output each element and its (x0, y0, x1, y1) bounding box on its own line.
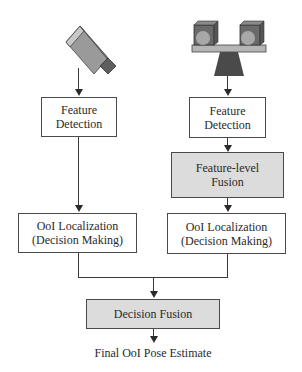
left-feature-detection-box: Feature Detection (41, 97, 117, 137)
arrow-head (224, 89, 232, 96)
box-label: Detection (204, 118, 251, 132)
decision-fusion-box: Decision Fusion (86, 299, 220, 329)
connector-stereo-to-feature (227, 76, 228, 90)
box-label: (Decision Making) (181, 234, 272, 248)
connector-merge-to-decision (153, 277, 154, 292)
right-feature-detection-box: Feature Detection (189, 97, 266, 138)
right-ool-localization-box: OoI Localization (Decision Making) (167, 213, 286, 254)
stereo-camera-icon (192, 20, 268, 80)
box-label: Detection (56, 117, 103, 131)
box-label: OoI Localization (186, 220, 268, 234)
box-label: (Decision Making) (32, 233, 123, 247)
final-output-label: Final OoI Pose Estimate (83, 346, 223, 361)
merge-left-vertical (78, 253, 79, 278)
box-label: OoI Localization (37, 219, 119, 233)
arrow-head (75, 205, 83, 212)
arrow-head (150, 336, 158, 343)
connector-left-feature-to-localization (78, 137, 79, 206)
box-label: Feature (210, 104, 246, 118)
connector-camera-to-feature (78, 68, 79, 90)
box-label: Fusion (211, 175, 244, 189)
feature-level-fusion-box: Feature-level Fusion (171, 152, 284, 198)
box-label: Feature-level (196, 161, 259, 175)
arrow-head (224, 145, 232, 152)
arrow-head (224, 205, 232, 212)
box-label: Feature (61, 103, 97, 117)
camera-icon (60, 22, 120, 82)
left-ool-localization-box: OoI Localization (Decision Making) (18, 213, 137, 253)
merge-right-vertical (227, 254, 228, 278)
arrow-head (150, 291, 158, 298)
arrow-head (75, 89, 83, 96)
box-label: Decision Fusion (114, 307, 192, 321)
